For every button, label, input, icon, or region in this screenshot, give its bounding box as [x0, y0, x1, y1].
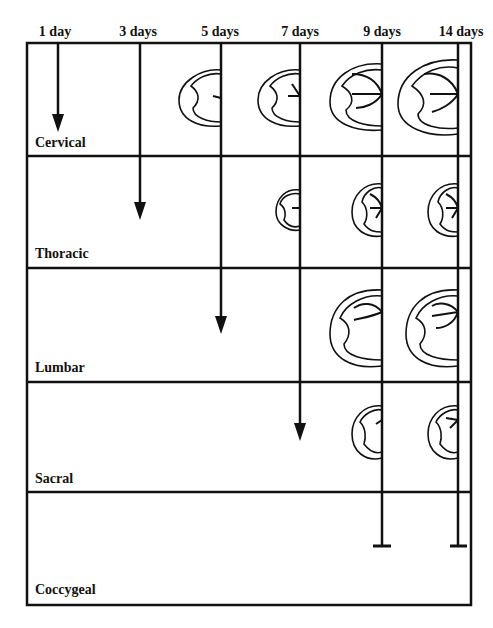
cross-section-cervical-5d — [179, 70, 221, 126]
row-label-thoracic: Thoracic — [35, 246, 89, 262]
cross-section-sacral-14d — [428, 406, 458, 459]
cross-section-lumbar-14d — [406, 290, 458, 367]
cross-section-cervical-9d — [330, 64, 382, 130]
outer-frame — [27, 43, 471, 605]
cross-section-thoracic-14d — [428, 184, 458, 236]
cross-section-lumbar-9d — [330, 290, 382, 367]
spinal-timeline-diagram — [0, 0, 493, 628]
cross-section-thoracic-7d — [276, 190, 300, 231]
cross-section-cervical-14d — [398, 60, 458, 135]
progression-line-9-days — [373, 43, 391, 546]
progression-line-5-days — [215, 43, 227, 334]
row-label-sacral: Sacral — [35, 471, 73, 487]
row-label-cervical: Cervical — [35, 135, 86, 151]
progression-line-3-days — [134, 43, 146, 220]
cross-section-thoracic-9d — [352, 184, 382, 236]
row-label-lumbar: Lumbar — [35, 360, 85, 376]
cross-section-sacral-9d — [352, 406, 382, 459]
cross-section-cervical-7d — [258, 70, 300, 126]
row-dividers — [27, 156, 471, 492]
row-label-coccygeal: Coccygeal — [35, 582, 96, 598]
progression-line-1-day — [52, 43, 64, 132]
progression-line-14-days — [450, 43, 467, 546]
